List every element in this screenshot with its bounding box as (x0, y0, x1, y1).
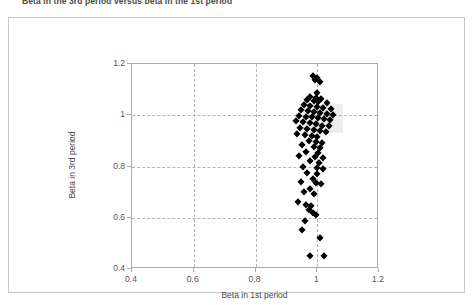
scatter-point (310, 191, 317, 198)
scatter-point (317, 235, 324, 242)
x-axis-title: Beta in 1st period (131, 290, 378, 300)
scatter-point (299, 226, 306, 233)
x-tick-label: 0.4 (106, 274, 156, 284)
x-tick-mark (378, 268, 379, 272)
scatter-point (304, 169, 311, 176)
y-axis-title: Beta in 3rd period (67, 131, 77, 198)
scatter-point (317, 181, 324, 188)
scatter-point (301, 217, 308, 224)
y-tick-label: 1.2 (85, 58, 125, 68)
x-tick-mark (255, 268, 256, 272)
scatter-point (306, 252, 313, 259)
gridline-vertical (256, 64, 257, 267)
scatter-point (296, 152, 303, 159)
scatter-point (320, 253, 327, 260)
y-tick-label: 1 (85, 109, 125, 119)
x-tick-mark (193, 268, 194, 272)
gridline-horizontal (132, 167, 377, 168)
gridline-vertical (194, 64, 195, 267)
y-tick-label: 0.8 (85, 161, 125, 171)
x-tick-label: 1 (291, 274, 341, 284)
gridline-horizontal (132, 218, 377, 219)
x-tick-label: 0.6 (168, 274, 218, 284)
x-tick-mark (131, 268, 132, 272)
plot-area (131, 63, 378, 268)
x-tick-label: 0.8 (230, 274, 280, 284)
scatter-point (303, 148, 310, 155)
figure-frame: Beta in 3rd period Beta in 1st period 0.… (8, 17, 465, 293)
scatter-point (298, 178, 305, 185)
chart-title: Beta in the 3rd period versus beta in th… (22, 0, 442, 7)
scatter-point (320, 165, 327, 172)
x-tick-label: 1.2 (353, 274, 403, 284)
scatter-point (306, 158, 313, 165)
y-tick-label: 0.6 (85, 212, 125, 222)
scatter-point (294, 198, 301, 205)
gridline-horizontal (132, 115, 377, 116)
y-tick-label: 0.4 (85, 263, 125, 273)
x-tick-mark (316, 268, 317, 272)
